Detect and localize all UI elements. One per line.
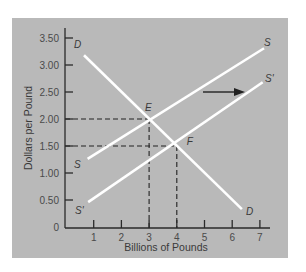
x-axis-title: Billions of Pounds — [124, 241, 207, 253]
y-tick-label: 3.00 — [40, 60, 60, 71]
x-tick-label: 6 — [229, 232, 235, 243]
label-end: S' — [265, 73, 275, 84]
y-tick-label: 0.50 — [40, 195, 60, 206]
y-tick-label: 2.00 — [40, 114, 60, 125]
label-start: D — [74, 39, 81, 50]
x-tick-label: 7 — [257, 232, 263, 243]
point-label-e: E — [145, 102, 152, 113]
y-tick-label: 3.50 — [40, 33, 60, 44]
y-tick-label: 2.50 — [40, 87, 60, 98]
point-label-f: F — [187, 136, 194, 147]
y-tick-label: 1.50 — [40, 141, 60, 152]
label-start: S' — [75, 205, 85, 216]
y-axis-title: Dollars per Pound — [22, 86, 34, 170]
x-tick-label: 1 — [91, 232, 97, 243]
label-start: S — [74, 159, 81, 170]
y-tick-label: 1.00 — [40, 168, 60, 179]
y-tick-label: 0 — [53, 222, 59, 233]
supply-demand-chart: 00.501.001.502.002.503.003.50 1234567 Do… — [0, 0, 306, 272]
label-end: D — [246, 206, 253, 217]
label-end: S — [264, 37, 271, 48]
